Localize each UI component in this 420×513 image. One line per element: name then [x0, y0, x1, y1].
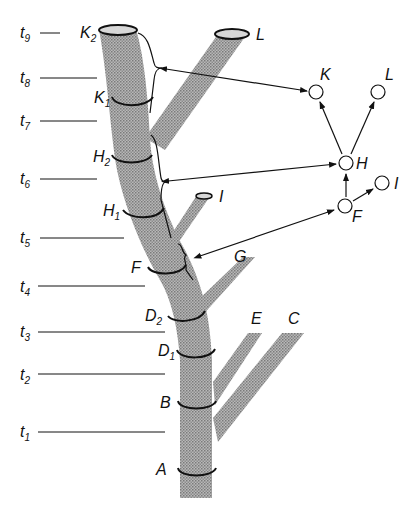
- graph-edges: [320, 102, 374, 201]
- graph-labels: K L H I F: [320, 66, 399, 225]
- edge-H-L: [351, 102, 374, 154]
- node-I: [375, 176, 389, 190]
- branch-C: [213, 333, 304, 442]
- svg-text:t5: t5: [20, 229, 30, 249]
- tree-label-D1: D1: [158, 342, 175, 362]
- svg-text:t7: t7: [20, 112, 30, 132]
- tree-label-E: E: [251, 310, 262, 327]
- arrow-brace-H-to-node-H: [168, 164, 336, 181]
- time-tick-t6: t6: [20, 170, 97, 190]
- tree-label-H1: H1: [103, 202, 120, 222]
- tree-label-B: B: [160, 394, 171, 411]
- svg-text:t8: t8: [20, 69, 30, 89]
- tree-label-I: I: [219, 188, 224, 205]
- svg-text:t4: t4: [20, 278, 30, 298]
- svg-text:t6: t6: [20, 170, 30, 190]
- opening-I: [196, 193, 212, 199]
- node-L: [371, 85, 385, 99]
- time-tick-t9: t9: [20, 24, 60, 44]
- graph-label-F: F: [352, 208, 363, 225]
- time-tick-t7: t7: [20, 112, 97, 132]
- node-K: [309, 85, 323, 99]
- node-H: [339, 156, 353, 170]
- opening-L: [215, 29, 249, 39]
- graph-label-K: K: [320, 66, 332, 83]
- time-tick-t2: t2: [20, 366, 165, 386]
- tree-label-H2: H2: [93, 148, 111, 168]
- svg-text:t2: t2: [20, 366, 30, 386]
- time-tick-t4: t4: [20, 278, 145, 298]
- tree-label-C: C: [288, 310, 300, 327]
- svg-text:t3: t3: [20, 323, 30, 343]
- node-F: [338, 199, 352, 213]
- tree-label-K2: K2: [80, 24, 97, 44]
- edge-F-I: [353, 189, 373, 201]
- time-tick-t3: t3: [20, 323, 165, 343]
- time-tick-t5: t5: [20, 229, 124, 249]
- tree-label-A: A: [155, 461, 167, 478]
- branch-L: [145, 34, 247, 150]
- edge-H-K: [320, 102, 342, 154]
- time-tick-t8: t8: [20, 69, 97, 89]
- phylogeny-diagram: t9 t8 t7 t6 t5 t4 t3 t2: [0, 0, 420, 513]
- tree-label-G: G: [234, 248, 246, 265]
- graph-label-H: H: [356, 155, 368, 172]
- svg-text:t1: t1: [20, 423, 30, 443]
- tree-label-D2: D2: [145, 307, 163, 327]
- opening-K2: [99, 25, 137, 35]
- tree-label-L: L: [256, 26, 265, 43]
- tree-label-F: F: [131, 259, 142, 276]
- arrow-brace-G-to-node-F: [200, 210, 334, 256]
- graph-label-L: L: [385, 66, 394, 83]
- graph-label-I: I: [394, 175, 399, 192]
- time-tick-t1: t1: [20, 423, 165, 443]
- svg-text:t9: t9: [20, 24, 30, 44]
